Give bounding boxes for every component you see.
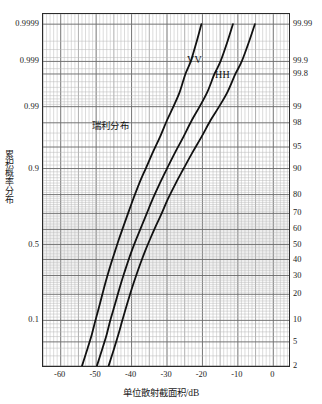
y-axis-right-tick-80: 80: [293, 189, 322, 198]
y-axis-right-tick-50: 50: [293, 239, 322, 248]
x-axis-tick--40: -40: [125, 370, 136, 379]
y-axis-right-tick-99: 99: [293, 101, 322, 110]
curve-VV: [97, 24, 233, 366]
x-axis-tick--30: -30: [160, 370, 171, 379]
y-axis-left-tick-0.99: 0.99: [0, 101, 39, 110]
y-axis-right-tick-95: 95: [293, 142, 322, 151]
vv-curve-label: VV: [187, 54, 202, 65]
y-axis-right-tick-99.99: 99.99: [293, 19, 322, 28]
y-axis-right-tick-5: 5: [293, 336, 322, 345]
hh-curve-label: HH: [215, 69, 230, 80]
y-axis-right-tick-90: 90: [293, 163, 322, 172]
chart-figure: 累积概率分布 0.99990.9990.990.90.50.1 瑞利分布 VV …: [0, 0, 322, 404]
y-axis-right-tick-40: 40: [293, 254, 322, 263]
y-axis-right-tick-30: 30: [293, 270, 322, 279]
x-axis-tick-0: 0: [270, 370, 274, 379]
x-axis-tick--60: -60: [54, 370, 65, 379]
x-axis-tick--50: -50: [90, 370, 101, 379]
x-axis-tick--20: -20: [196, 370, 207, 379]
curves-layer: [43, 14, 289, 366]
rayleigh-curve-label: 瑞利分布: [92, 118, 129, 132]
y-axis-left-tick-0.9999: 0.9999: [0, 19, 39, 28]
y-axis-right-tick-20: 20: [293, 289, 322, 298]
y-axis-right-tick-99.8: 99.8: [293, 69, 322, 78]
y-axis-left-tick-0.999: 0.999: [0, 56, 39, 65]
y-axis-title: 累积概率分布: [1, 150, 14, 204]
curve-HH: [109, 24, 255, 366]
y-axis-right-tick-10: 10: [293, 315, 322, 324]
y-axis-right-tick-70: 70: [293, 208, 322, 217]
y-axis-right-tick-99.9: 99.9: [293, 56, 322, 65]
y-axis-right-tick-2: 2: [293, 361, 322, 370]
curve-瑞利分布: [82, 24, 201, 366]
x-axis-title: 单位散射截面积/dB: [0, 385, 322, 399]
x-axis-tick--10: -10: [231, 370, 242, 379]
y-axis-left-tick-0.5: 0.5: [0, 239, 39, 248]
y-axis-left-tick-0.9: 0.9: [0, 163, 39, 172]
y-axis-right-tick-98: 98: [293, 117, 322, 126]
y-axis-left-tick-0.1: 0.1: [0, 315, 39, 324]
y-axis-right-tick-60: 60: [293, 224, 322, 233]
plot-area: [42, 13, 290, 367]
